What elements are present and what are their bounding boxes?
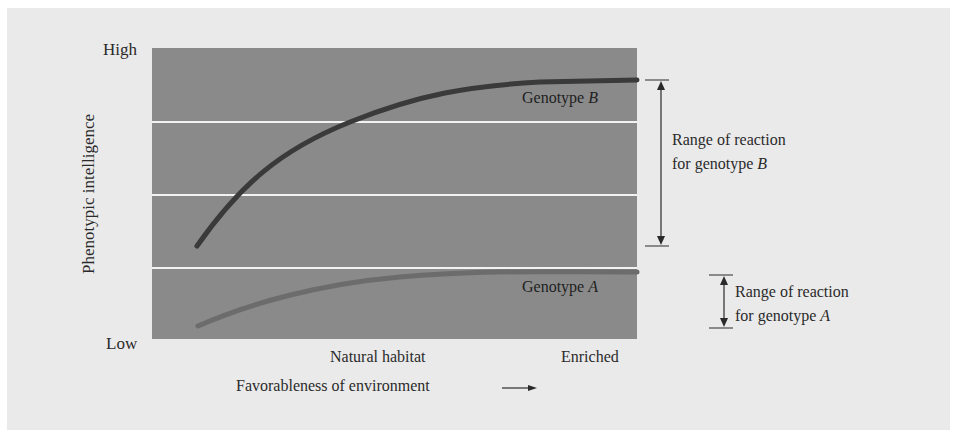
range-bracket-b (645, 80, 669, 246)
range-b-line1: Range of reaction (672, 128, 786, 152)
x-tick-natural-habitat: Natural habitat (330, 349, 426, 365)
y-tick-low: Low (106, 335, 137, 352)
label-genotype-b: Genotype B (522, 90, 598, 106)
range-annotation-b: Range of reaction for genotype B (672, 128, 786, 176)
label-genotype-b-prefix: Genotype (522, 89, 588, 106)
y-tick-high: High (103, 41, 137, 58)
label-genotype-b-letter: B (588, 89, 598, 106)
range-a-line2: for genotype A (735, 304, 849, 328)
x-axis-label: Favorableness of environment (236, 378, 430, 394)
y-axis-label: Phenotypic intelligence (80, 114, 97, 274)
reaction-range-chart (0, 0, 960, 433)
label-genotype-a-prefix: Genotype (522, 278, 588, 295)
range-b-line2-prefix: for genotype (672, 155, 757, 172)
range-b-line2-letter: B (757, 155, 767, 172)
label-genotype-a-letter: A (588, 278, 598, 295)
range-b-line2: for genotype B (672, 152, 786, 176)
range-a-line2-prefix: for genotype (735, 307, 820, 324)
range-a-line1: Range of reaction (735, 280, 849, 304)
range-annotation-a: Range of reaction for genotype A (735, 280, 849, 328)
x-axis-arrow-icon (502, 385, 537, 391)
label-genotype-a: Genotype A (522, 279, 598, 295)
x-tick-enriched: Enriched (561, 349, 619, 365)
range-bracket-a (709, 275, 733, 328)
range-a-line2-letter: A (820, 307, 830, 324)
